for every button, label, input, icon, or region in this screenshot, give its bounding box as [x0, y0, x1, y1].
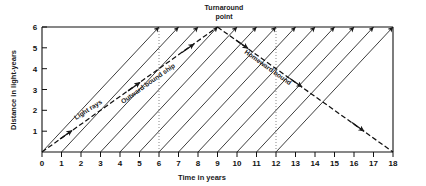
y-tick-label-5: 5 — [33, 44, 38, 53]
x-tick-label-7: 7 — [176, 159, 181, 168]
x-tick-label-5: 5 — [137, 159, 142, 168]
x-tick-label-9: 9 — [215, 159, 220, 168]
x-axis-ticks — [42, 152, 393, 157]
spacetime-diagram-figure: Turnaround point 1 2 3 4 5 6 — [0, 0, 426, 186]
x-tick-label-13: 13 — [291, 159, 300, 168]
x-tick-label-10: 10 — [233, 159, 242, 168]
homeward-bound-label: Homeward bound — [243, 48, 292, 86]
x-tick-label-18: 18 — [389, 159, 398, 168]
y-tick-label-6: 6 — [33, 23, 38, 32]
light-ray-12 — [276, 27, 393, 152]
x-tick-label-8: 8 — [196, 159, 201, 168]
x-axis-tick-labels: 0 1 2 3 4 5 6 7 8 9 10 11 12 13 14 15 16… — [40, 159, 398, 168]
light-ray-5 — [140, 27, 257, 152]
diagram-canvas: Turnaround point 1 2 3 4 5 6 — [0, 0, 426, 186]
light-ray-1 — [62, 27, 179, 152]
light-rays-label: Light rays — [73, 98, 104, 122]
y-axis-ticks — [42, 27, 47, 131]
ship-direction-arrows — [60, 40, 364, 139]
y-tick-label-2: 2 — [33, 106, 38, 115]
light-ray-11 — [257, 27, 374, 152]
light-ray-6 — [159, 27, 276, 152]
y-tick-label-1: 1 — [33, 127, 38, 136]
x-tick-label-12: 12 — [272, 159, 281, 168]
x-tick-label-4: 4 — [118, 159, 123, 168]
light-ray-8 — [198, 27, 315, 152]
x-tick-label-2: 2 — [79, 159, 84, 168]
x-tick-label-16: 16 — [350, 159, 359, 168]
light-ray-7 — [179, 27, 296, 152]
outward-bound-ship-label: Outward-bound ship — [120, 62, 177, 106]
turnaround-label-line2: point — [215, 13, 233, 21]
x-tick-label-15: 15 — [330, 159, 339, 168]
turnaround-label-line1: Turnaround — [205, 4, 244, 11]
x-tick-label-0: 0 — [40, 159, 45, 168]
x-axis-title: Time in years — [178, 173, 226, 182]
x-tick-label-3: 3 — [98, 159, 103, 168]
y-axis-tick-labels: 1 2 3 4 5 6 — [33, 23, 38, 136]
x-tick-label-14: 14 — [311, 159, 320, 168]
light-ray-10 — [237, 27, 354, 152]
outward-arrow-3 — [182, 44, 194, 53]
x-tick-label-6: 6 — [157, 159, 162, 168]
y-axis-title: Distance in light-years — [9, 50, 18, 130]
y-tick-label-4: 4 — [33, 65, 38, 74]
x-tick-label-1: 1 — [59, 159, 64, 168]
homeward-arrow-3 — [352, 123, 364, 132]
outward-arrow-1 — [60, 131, 72, 140]
y-tick-label-3: 3 — [33, 86, 38, 95]
x-tick-label-17: 17 — [369, 159, 378, 168]
light-rays-group — [42, 27, 393, 152]
turnaround-annotation: Turnaround point — [205, 4, 244, 21]
x-tick-label-11: 11 — [252, 159, 261, 168]
